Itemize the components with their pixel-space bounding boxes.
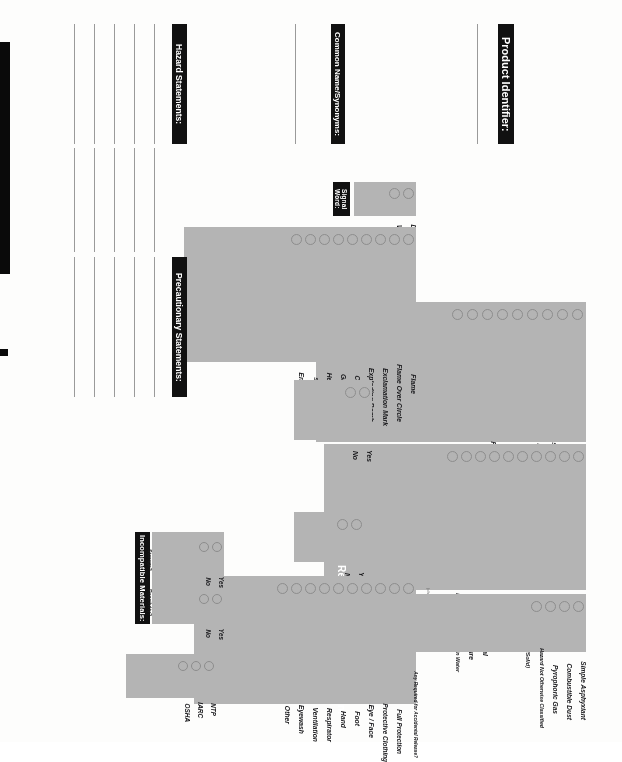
checkbox-symbol-8[interactable] bbox=[291, 234, 302, 245]
row-physical-3[interactable]: Self-Reactive bbox=[530, 444, 544, 590]
checkbox-ppe-3[interactable] bbox=[361, 583, 372, 594]
checkbox-fire-0[interactable] bbox=[351, 519, 362, 530]
checkbox-health-7[interactable] bbox=[467, 309, 478, 320]
checkbox-other-3[interactable] bbox=[531, 601, 542, 612]
row-carc-2[interactable]: OSHA bbox=[177, 654, 190, 698]
row-physical-9[interactable]: Emits Flammable Gas in Water bbox=[446, 444, 460, 590]
row-other-3[interactable]: Hazard Not Otherwise Classified bbox=[530, 594, 544, 652]
row-ppe-6[interactable]: Respirator bbox=[318, 576, 332, 704]
checkbox-carc-ntp[interactable] bbox=[204, 661, 214, 671]
row-ppe-2[interactable]: Protective Clothing bbox=[374, 576, 388, 704]
hazard-statements-line-3-ext[interactable] bbox=[114, 148, 115, 252]
row-ppe-3[interactable]: Eye / Face bbox=[360, 576, 374, 704]
hazard-statements-line-5-ext[interactable] bbox=[74, 148, 75, 252]
checkbox-signal-1[interactable] bbox=[389, 188, 400, 199]
checkbox-medical-0[interactable] bbox=[359, 387, 370, 398]
row-carc-0[interactable]: NTP bbox=[203, 654, 216, 698]
precautionary-statements-line-3[interactable] bbox=[114, 257, 115, 397]
precautionary-statements-line-2[interactable] bbox=[134, 257, 135, 397]
row-incompat-no[interactable]: No No bbox=[198, 532, 211, 624]
row-ppe-9[interactable]: Other bbox=[276, 576, 290, 704]
checkbox-symbol-1[interactable] bbox=[389, 234, 400, 245]
row-health-1[interactable]: Skin Corrosion / Irritation bbox=[556, 302, 571, 442]
row-physical-4[interactable]: Pyrophoric (Liquid/Solid) bbox=[516, 444, 530, 590]
checkbox-incompat-handling-no[interactable] bbox=[199, 542, 209, 552]
hazard-statements-line-1-ext[interactable] bbox=[154, 148, 155, 252]
row-health-7[interactable]: Specific Target Organ Toxicity bbox=[466, 302, 481, 442]
row-symbol-1[interactable]: Flame Over Circle bbox=[388, 227, 402, 362]
hazard-statements-line-2[interactable] bbox=[134, 24, 135, 144]
checkbox-physical-5[interactable] bbox=[503, 451, 514, 462]
row-ppe-0[interactable]: Any Required for Accidental Release? bbox=[402, 576, 416, 704]
checkbox-incompat-stability-yes[interactable] bbox=[212, 594, 222, 604]
checkbox-signal-0[interactable] bbox=[403, 188, 414, 199]
row-physical-6[interactable]: Organic Peroxide bbox=[488, 444, 502, 590]
row-signal-0[interactable]: Danger bbox=[402, 182, 416, 216]
row-fire-1[interactable]: No bbox=[336, 512, 350, 562]
checkbox-physical-9[interactable] bbox=[447, 451, 458, 462]
common-name-input-line[interactable] bbox=[295, 24, 296, 144]
row-symbol-3[interactable]: Exploding Bomb bbox=[360, 227, 374, 362]
checkbox-physical-1[interactable] bbox=[559, 451, 570, 462]
row-physical-0[interactable]: Explosive bbox=[572, 444, 586, 590]
precautionary-statements-line-5[interactable] bbox=[74, 257, 75, 397]
checkbox-ppe-4[interactable] bbox=[347, 583, 358, 594]
row-ppe-4[interactable]: Foot bbox=[346, 576, 360, 704]
hazard-statements-line-4-ext[interactable] bbox=[94, 148, 95, 252]
row-carc-1[interactable]: IARC bbox=[190, 654, 203, 698]
product-identifier-input-line[interactable] bbox=[477, 24, 478, 144]
checkbox-physical-7[interactable] bbox=[475, 451, 486, 462]
hazard-statements-line-5[interactable] bbox=[74, 24, 75, 144]
checkbox-ppe-9[interactable] bbox=[277, 583, 288, 594]
checkbox-symbol-0[interactable] bbox=[403, 234, 414, 245]
checkbox-health-3[interactable] bbox=[527, 309, 538, 320]
checkbox-physical-3[interactable] bbox=[531, 451, 542, 462]
checkbox-symbol-2[interactable] bbox=[375, 234, 386, 245]
hazard-statements-line-3[interactable] bbox=[114, 24, 115, 144]
row-physical-1[interactable]: Flammable bbox=[558, 444, 572, 590]
checkbox-other-1[interactable] bbox=[559, 601, 570, 612]
precautionary-statements-line-4[interactable] bbox=[94, 257, 95, 397]
checkbox-symbol-6[interactable] bbox=[319, 234, 330, 245]
row-physical-2[interactable]: Oxidizer bbox=[544, 444, 558, 590]
checkbox-incompat-handling-yes[interactable] bbox=[212, 542, 222, 552]
checkbox-symbol-7[interactable] bbox=[305, 234, 316, 245]
row-medical-0[interactable]: Yes bbox=[358, 380, 372, 440]
checkbox-incompat-stability-no[interactable] bbox=[199, 594, 209, 604]
row-physical-5[interactable]: Self-Heating bbox=[502, 444, 516, 590]
row-symbol-2[interactable]: Exclamation Mark bbox=[374, 227, 388, 362]
checkbox-health-1[interactable] bbox=[557, 309, 568, 320]
row-health-0[interactable]: Acute Toxicity bbox=[571, 302, 586, 442]
row-health-2[interactable]: Serious Eye Damage / Irritation bbox=[541, 302, 556, 442]
checkbox-physical-8[interactable] bbox=[461, 451, 472, 462]
checkbox-ppe-7[interactable] bbox=[305, 583, 316, 594]
checkbox-ppe-1[interactable] bbox=[389, 583, 400, 594]
hazard-statements-line-1[interactable] bbox=[154, 24, 155, 144]
checkbox-carc-iarc[interactable] bbox=[191, 661, 201, 671]
checkbox-physical-2[interactable] bbox=[545, 451, 556, 462]
checkbox-carc-osha[interactable] bbox=[178, 661, 188, 671]
row-symbol-7[interactable]: Skull and Crossbones bbox=[304, 227, 318, 362]
checkbox-symbol-3[interactable] bbox=[361, 234, 372, 245]
row-symbol-6[interactable]: Health Hazard bbox=[318, 227, 332, 362]
hazard-statements-line-4[interactable] bbox=[94, 24, 95, 144]
row-symbol-0[interactable]: Flame bbox=[402, 227, 416, 362]
row-symbol-4[interactable]: Corrosion bbox=[346, 227, 360, 362]
row-ppe-5[interactable]: Hand bbox=[332, 576, 346, 704]
precautionary-statements-line-1[interactable] bbox=[154, 257, 155, 397]
checkbox-physical-4[interactable] bbox=[517, 451, 528, 462]
row-health-5[interactable]: Carcinogenicity bbox=[496, 302, 511, 442]
checkbox-other-0[interactable] bbox=[573, 601, 584, 612]
row-health-6[interactable]: Reproductive Toxicity bbox=[481, 302, 496, 442]
checkbox-medical-1[interactable] bbox=[345, 387, 356, 398]
checkbox-ppe-2[interactable] bbox=[375, 583, 386, 594]
row-ppe-1[interactable]: Full Protection bbox=[388, 576, 402, 704]
row-symbol-8[interactable]: Environment bbox=[290, 227, 304, 362]
row-physical-8[interactable]: Gas Under Pressure bbox=[460, 444, 474, 590]
row-fire-0[interactable]: Yes bbox=[350, 512, 364, 562]
row-incompat-stab-yes[interactable]: Yes Yes bbox=[211, 532, 224, 624]
checkbox-physical-6[interactable] bbox=[489, 451, 500, 462]
row-ppe-7[interactable]: Ventilation bbox=[304, 576, 318, 704]
row-ppe-8[interactable]: Eyewash bbox=[290, 576, 304, 704]
row-symbol-5[interactable]: Gas Cylinder bbox=[332, 227, 346, 362]
